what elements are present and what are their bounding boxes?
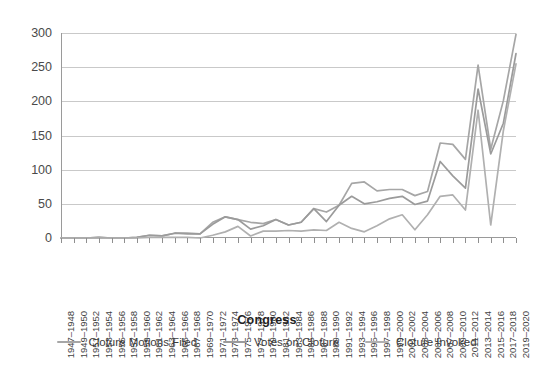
- legend-label: Votes on Cloture: [254, 336, 339, 348]
- series-line: [61, 54, 516, 239]
- x-tick: [516, 238, 517, 243]
- x-tick: [339, 238, 340, 243]
- y-axis: 050100150200250300: [0, 0, 56, 367]
- cloture-line-chart: 050100150200250300 1947–19481949–1950195…: [0, 0, 534, 367]
- x-axis-labels: 1947–19481949–19501951–19521953–19541955…: [61, 245, 516, 313]
- x-tick: [263, 238, 264, 243]
- x-tick: [390, 238, 391, 243]
- x-tick: [478, 238, 479, 243]
- x-tick: [251, 238, 252, 243]
- legend-swatch-icon: [365, 341, 389, 344]
- x-tick: [402, 238, 403, 243]
- y-tick-label: 250: [0, 61, 52, 74]
- x-tick: [238, 238, 239, 243]
- x-tick: [74, 238, 75, 243]
- x-axis-title: Congress: [0, 313, 534, 327]
- y-tick-label: 300: [0, 27, 52, 40]
- plot-area: [61, 33, 516, 238]
- y-tick-label: 50: [0, 198, 52, 211]
- x-tick: [213, 238, 214, 243]
- x-tick: [276, 238, 277, 243]
- x-tick: [377, 238, 378, 243]
- series-line: [61, 64, 516, 238]
- x-tick: [187, 238, 188, 243]
- x-tick: [301, 238, 302, 243]
- x-tick: [415, 238, 416, 243]
- x-tick: [465, 238, 466, 243]
- x-tick: [162, 238, 163, 243]
- x-tick: [137, 238, 138, 243]
- x-tick: [289, 238, 290, 243]
- y-tick-label: 150: [0, 130, 52, 143]
- y-tick-label: 100: [0, 164, 52, 177]
- x-tick: [225, 238, 226, 243]
- legend-label: Cloture Invoked: [396, 336, 477, 348]
- legend-item[interactable]: Cloture Invoked: [365, 336, 477, 348]
- x-tick: [124, 238, 125, 243]
- x-tick: [453, 238, 454, 243]
- x-tick: [326, 238, 327, 243]
- series-lines: [61, 33, 516, 238]
- x-tick: [200, 238, 201, 243]
- legend-swatch-icon: [223, 341, 247, 344]
- x-tick: [175, 238, 176, 243]
- x-axis-ticks: [61, 238, 516, 244]
- legend-item[interactable]: Cloture Motions Filed: [57, 336, 197, 348]
- legend-swatch-icon: [57, 341, 81, 344]
- x-tick: [428, 238, 429, 243]
- x-tick: [86, 238, 87, 243]
- x-tick: [503, 238, 504, 243]
- x-tick: [99, 238, 100, 243]
- series-line: [61, 34, 516, 238]
- legend-item[interactable]: Votes on Cloture: [223, 336, 339, 348]
- legend-label: Cloture Motions Filed: [88, 336, 197, 348]
- x-tick: [61, 238, 62, 243]
- x-tick: [440, 238, 441, 243]
- y-tick-label: 200: [0, 95, 52, 108]
- x-tick: [314, 238, 315, 243]
- x-tick: [112, 238, 113, 243]
- x-tick: [491, 238, 492, 243]
- x-tick: [364, 238, 365, 243]
- x-tick: [149, 238, 150, 243]
- chart-legend: Cloture Motions FiledVotes on ClotureClo…: [0, 336, 534, 348]
- y-tick-label: 0: [0, 232, 52, 245]
- x-tick: [352, 238, 353, 243]
